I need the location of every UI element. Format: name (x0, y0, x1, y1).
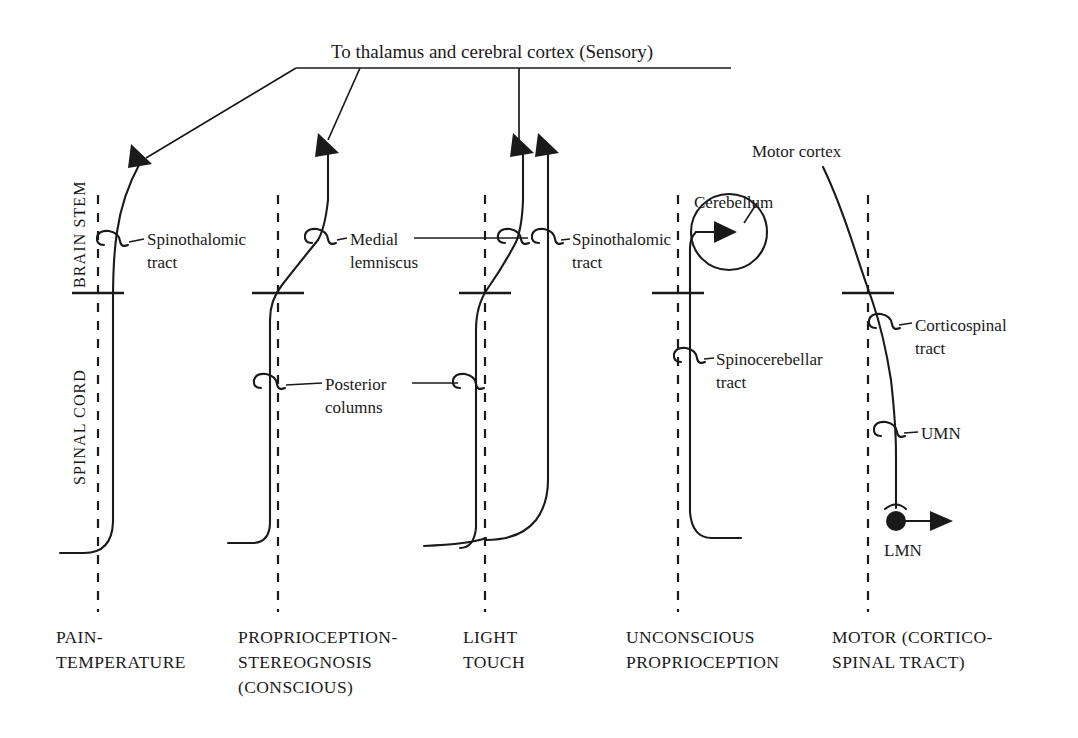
ascending-fiber-col3-right (486, 150, 548, 540)
label-motor-cortex: Motor cortex (752, 142, 842, 161)
label-umn: UMN (921, 424, 961, 443)
caption-light-touch-line2: TOUCH (463, 652, 525, 672)
caption-proprioception-line1: PROPRIOCEPTION- (238, 627, 398, 647)
column-light-touch: Spinothalomic tract (424, 133, 672, 548)
afferent-entry-col3 (424, 538, 486, 546)
region-labels: BRAIN STEM SPINAL CORD (71, 181, 88, 485)
label-corticospinal-tract-line2: tract (915, 339, 945, 358)
label-spinothalamic-tract-col1-line2: tract (147, 253, 177, 272)
midlines (98, 195, 868, 612)
arrowhead-col2 (315, 133, 339, 157)
lower-motor-neuron-soma (886, 511, 906, 531)
label-spinothalamic-tract-col3-line1: Spinothalomic (572, 230, 672, 249)
caption-unconscious-proprioception-line2: PROPRIOCEPTION (626, 652, 779, 672)
label-spinocerebellar-tract-line1: Spinocerebellar (716, 350, 823, 369)
label-posterior-columns-line1: Posterior (325, 375, 387, 394)
leader-col2-posterior-columns (286, 383, 322, 385)
arrowhead-col3-right (535, 133, 559, 157)
label-spinocerebellar-tract-line2: tract (716, 373, 746, 392)
synapse-curl-umn (874, 422, 905, 437)
label-posterior-columns-line2: columns (325, 398, 383, 417)
thalamus-cortex-bus (146, 68, 731, 158)
arrowhead-cerebellum (714, 221, 737, 243)
caption-pain-temperature-line1: PAIN- (56, 627, 103, 647)
spinal-tracts-diagram: To thalamus and cerebral cortex (Sensory… (0, 0, 1078, 738)
leader-col2-medial-lemniscus (337, 238, 347, 240)
region-label-spinal-cord: SPINAL CORD (71, 369, 88, 485)
label-cerebellum: Cerebellum (694, 193, 773, 212)
arrowhead-lmn (930, 511, 953, 531)
column-proprioception-stereognosis: Medial lemniscus Posterior columns (228, 133, 528, 543)
leader-col3-spinothalamic (561, 239, 570, 240)
diagram-canvas: To thalamus and cerebral cortex (Sensory… (0, 0, 1078, 738)
region-label-brain-stem: BRAIN STEM (71, 181, 88, 288)
leader-spinocerebellar (704, 358, 714, 359)
synapse-curl-col3-lower (453, 374, 484, 389)
corticospinal-fiber (823, 167, 896, 508)
synapse-curl-col1 (97, 231, 128, 246)
caption-motor-line2: SPINAL TRACT) (832, 652, 965, 672)
caption-proprioception-line3: (CONSCIOUS) (238, 677, 353, 697)
label-spinothalamic-tract-col3-line2: tract (572, 253, 602, 272)
caption-unconscious-proprioception-line1: UNCONSCIOUS (626, 627, 755, 647)
label-corticospinal-tract-line1: Corticospinal (915, 316, 1007, 335)
caption-motor-line1: MOTOR (CORTICO- (832, 627, 993, 647)
column-unconscious-proprioception: Cerebellum Spinocerebellar tract (674, 193, 823, 538)
label-spinothalamic-tract-col1-line1: Spinothalomic (147, 230, 247, 249)
ascending-fiber-col3-left (460, 150, 523, 548)
label-lmn: LMN (884, 541, 922, 560)
synapse-curl-col3-upper (498, 229, 529, 244)
caption-proprioception-line2: STEREOGNOSIS (238, 652, 372, 672)
caption-pain-temperature-line2: TEMPERATURE (56, 652, 186, 672)
label-medial-lemniscus-line1: Medial (350, 230, 398, 249)
figure-title: To thalamus and cerebral cortex (Sensory… (331, 41, 653, 63)
leader-col1-spinothalamic (129, 239, 144, 242)
caption-light-touch-line1: LIGHT (463, 627, 517, 647)
leader-umn (904, 432, 918, 433)
label-medial-lemniscus-line2: lemniscus (350, 253, 418, 272)
synapse-curl-corticospinal (869, 314, 900, 329)
column-captions: PAIN- TEMPERATURE PROPRIOCEPTION- STEREO… (56, 627, 993, 697)
leader-corticospinal (899, 323, 912, 325)
arrowhead-col3-left (510, 133, 534, 157)
